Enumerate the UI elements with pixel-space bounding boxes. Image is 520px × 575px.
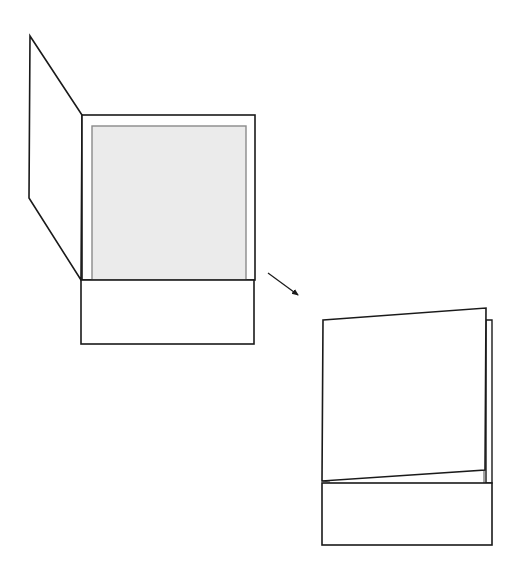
insert-sheet: [92, 126, 246, 280]
open-folder: [29, 36, 255, 344]
folder-diagram: [0, 0, 520, 575]
closed-folder-front-cover: [322, 308, 486, 481]
open-folder-pocket: [81, 280, 254, 344]
open-folder-flap: [29, 36, 82, 280]
closed-folder: [322, 308, 492, 545]
closed-folder-pocket: [322, 483, 492, 545]
transition-arrow: [268, 273, 298, 295]
closed-folder-back-panel: [486, 320, 492, 483]
